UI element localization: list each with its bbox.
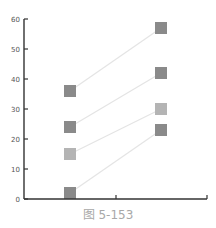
y-tick-label: 0 [16,196,20,204]
data-point-marker [155,124,167,136]
series-markers [64,22,167,199]
series-line-3 [70,109,161,154]
data-point-marker [64,148,76,160]
axes: 0102030405060 [11,16,207,204]
y-tick-label: 60 [11,16,20,24]
y-tick-label: 50 [11,46,20,54]
data-point-marker [64,85,76,97]
figure-caption: 图 5-153 [0,205,216,222]
data-point-marker [155,67,167,79]
data-point-marker [64,187,76,199]
y-tick-label: 10 [11,166,20,174]
series-line-4 [70,130,161,193]
series-lines [70,28,161,193]
slope-chart: 0102030405060 [0,0,216,205]
data-point-marker [64,121,76,133]
y-tick-label: 40 [11,76,20,84]
data-point-marker [155,103,167,115]
y-tick-label: 20 [11,136,20,144]
y-tick-label: 30 [11,106,20,114]
data-point-marker [155,22,167,34]
